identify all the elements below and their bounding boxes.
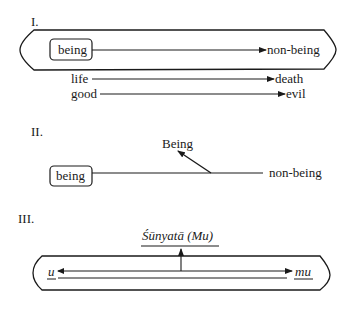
section-2-label: II. (31, 124, 43, 139)
section-1-label: I. (31, 14, 39, 29)
diagram-canvas: I. being non-being life death good evil … (0, 0, 354, 310)
non-being-label-2: non-being (269, 165, 322, 180)
raised-being-label: Being (162, 136, 194, 151)
life-label: life (71, 71, 89, 86)
rise-to-being-arrow (178, 151, 211, 173)
u-label: u (48, 264, 55, 279)
section-1: I. being non-being life death good evil (20, 14, 336, 101)
section-2: II. Being being non-being (31, 124, 322, 186)
evil-label: evil (286, 86, 306, 101)
good-label: good (71, 86, 98, 101)
section-3: III. Śūnyatā (Mu) u mu (18, 211, 330, 290)
non-being-label: non-being (267, 42, 320, 57)
being-label: being (58, 42, 87, 57)
mu-label: mu (295, 264, 311, 279)
being-label-2: being (56, 168, 85, 183)
death-label: death (275, 71, 304, 86)
sunyata-label: Śūnyatā (Mu) (142, 228, 213, 243)
section-3-label: III. (18, 211, 34, 226)
